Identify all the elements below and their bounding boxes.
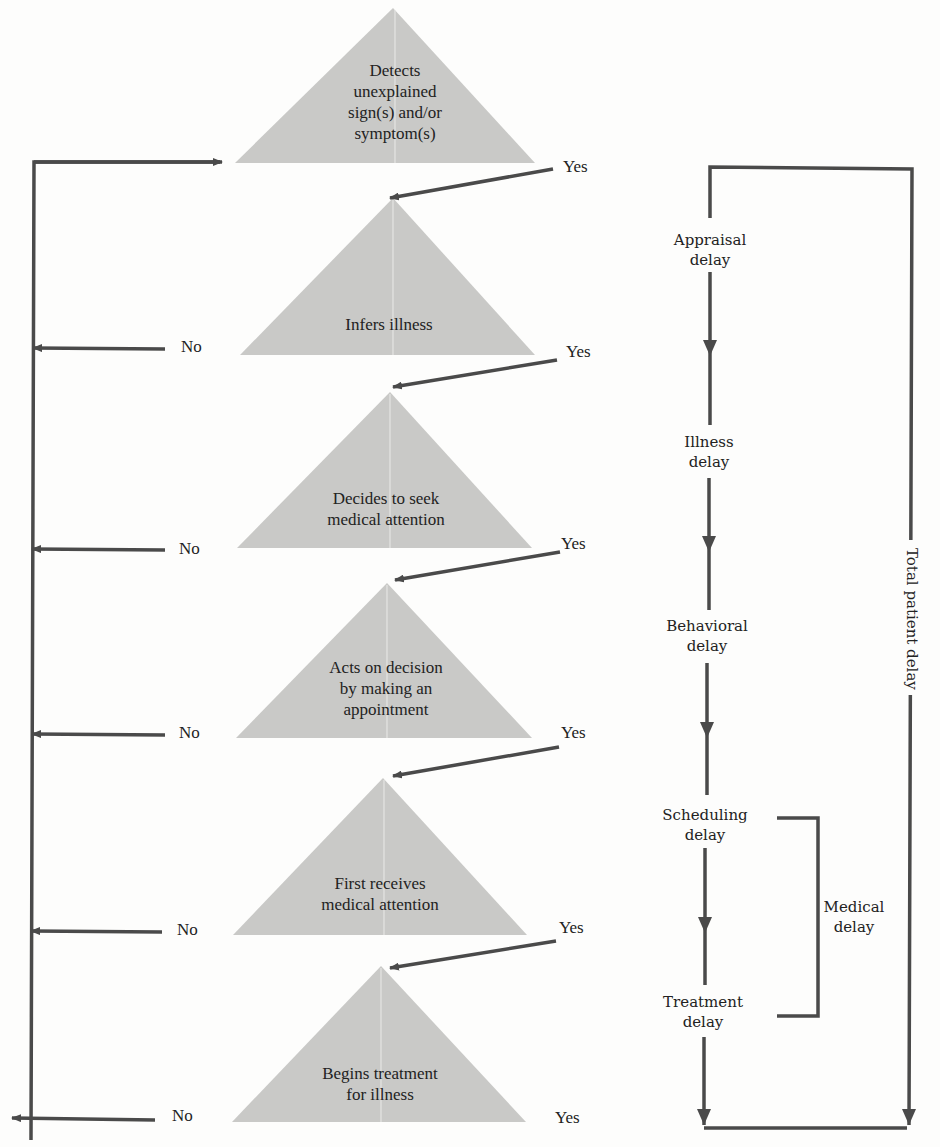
step-6-line: Begins treatment (280, 1063, 480, 1084)
delay-line: Treatment (633, 992, 773, 1012)
step-4-line: by making an (286, 678, 486, 699)
yes-label: Yes (561, 534, 586, 554)
yes-label: Yes (559, 918, 584, 938)
delay-line: Illness (639, 432, 779, 452)
delay-line: Medical (794, 897, 914, 917)
delay-line: delay (794, 917, 914, 937)
yes-label: Yes (563, 157, 588, 177)
no-label: No (172, 1106, 193, 1126)
delay-line: Appraisal (640, 230, 780, 250)
yes-label: Yes (555, 1108, 580, 1128)
yes-label: Yes (561, 723, 586, 743)
step-1-line: sign(s) and/or (295, 102, 495, 123)
yes-label: Yes (566, 342, 591, 362)
step-4-line: Acts on decision (286, 657, 486, 678)
no-label: No (177, 920, 198, 940)
no-label: No (181, 337, 202, 357)
medical-delay-label: Medical delay (794, 897, 914, 937)
step-4-line: appointment (286, 699, 486, 720)
no-label: No (179, 723, 200, 743)
step-1-label: Detects unexplained sign(s) and/or sympt… (295, 60, 495, 144)
step-5-line: medical attention (280, 894, 480, 915)
step-3-label: Decides to seek medical attention (286, 488, 486, 530)
step-2-line: Infers illness (289, 314, 489, 335)
step-6-line: for illness (280, 1084, 480, 1105)
behavioral-delay-label: Behavioral delay (637, 616, 777, 656)
step-6-label: Begins treatment for illness (280, 1063, 480, 1105)
no-feedback-loop (12, 162, 222, 1140)
step-1-line: symptom(s) (295, 123, 495, 144)
delay-line: delay (640, 250, 780, 270)
step-3-line: medical attention (286, 509, 486, 530)
appraisal-delay-label: Appraisal delay (640, 230, 780, 270)
delay-line: delay (633, 1012, 773, 1032)
treatment-delay-label: Treatment delay (633, 992, 773, 1032)
step-4-label: Acts on decision by making an appointmen… (286, 657, 486, 720)
step-5-label: First receives medical attention (280, 873, 480, 915)
delay-line: Scheduling (635, 805, 775, 825)
scheduling-delay-label: Scheduling delay (635, 805, 775, 845)
delay-line: delay (639, 452, 779, 472)
step-2-label: Infers illness (289, 314, 489, 335)
step-1-line: unexplained (295, 81, 495, 102)
illness-delay-label: Illness delay (639, 432, 779, 472)
step-1-line: Detects (295, 60, 495, 81)
delay-line: Behavioral (637, 616, 777, 636)
step-3-line: Decides to seek (286, 488, 486, 509)
delay-line: delay (637, 636, 777, 656)
flowchart-canvas (0, 0, 940, 1147)
no-label: No (179, 539, 200, 559)
step-5-line: First receives (280, 873, 480, 894)
total-patient-delay-label: Total patient delay (903, 548, 921, 690)
delay-line: delay (635, 825, 775, 845)
